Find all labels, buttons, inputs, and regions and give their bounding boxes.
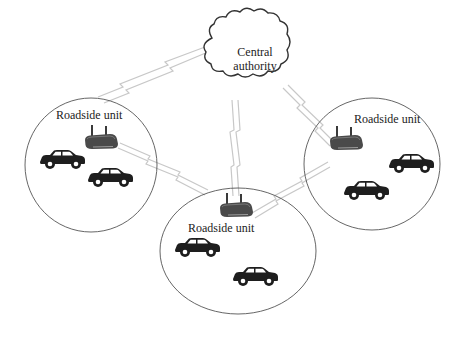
roadside-unit-label-right: Roadside unit xyxy=(354,113,420,126)
link-central-right xyxy=(283,85,335,146)
link-right-middle xyxy=(252,162,330,218)
router-icon-right xyxy=(330,126,363,150)
car-icon-right-1 xyxy=(389,154,434,173)
network-diagram: Central authority Roadside unit Roadside… xyxy=(0,0,466,341)
car-icon-left-2 xyxy=(88,168,133,187)
car-icon-middle-1 xyxy=(175,238,220,257)
car-icon-middle-2 xyxy=(233,267,278,286)
car-icon-left-1 xyxy=(40,150,85,169)
central-label-line1: Central xyxy=(224,45,286,59)
link-central-middle xyxy=(230,100,240,196)
router-icon-middle xyxy=(220,193,253,217)
link-central-left xyxy=(98,47,208,103)
central-label-line2: authority xyxy=(224,59,286,73)
car-icon-right-2 xyxy=(344,181,389,200)
link-left-middle xyxy=(118,143,208,195)
roadside-unit-label-left: Roadside unit xyxy=(56,109,122,122)
router-icon-left xyxy=(85,125,118,149)
central-authority-label: Central authority xyxy=(224,45,286,73)
roadside-unit-label-middle: Roadside unit xyxy=(188,222,254,235)
wireless-links xyxy=(98,47,335,218)
